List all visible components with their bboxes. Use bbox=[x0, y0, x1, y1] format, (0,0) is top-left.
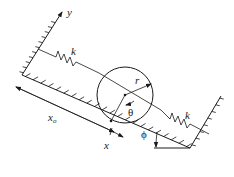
hatch-mark bbox=[212, 111, 216, 112]
hatch-mark bbox=[71, 93, 76, 96]
right-spring-label: k bbox=[185, 109, 191, 121]
theta-arrow bbox=[126, 101, 134, 105]
hatch-mark bbox=[45, 32, 49, 33]
phi-label: ϕ bbox=[141, 128, 147, 140]
hatch-mark bbox=[48, 83, 53, 86]
hatch-mark bbox=[141, 124, 146, 127]
radius-label: r bbox=[135, 74, 140, 86]
hatch-mark bbox=[204, 125, 208, 126]
hatch-mark bbox=[148, 127, 153, 130]
right-wall-line bbox=[190, 96, 221, 148]
x-axis-arrow bbox=[112, 131, 123, 137]
hatch-mark bbox=[216, 105, 220, 106]
hatch-mark bbox=[56, 87, 61, 90]
hatch-mark bbox=[118, 114, 123, 117]
hatch-mark bbox=[200, 132, 204, 133]
incline-hatching bbox=[25, 73, 191, 146]
hatch-mark bbox=[192, 145, 196, 146]
hatch-mark bbox=[208, 118, 212, 119]
hatch-mark bbox=[220, 98, 224, 99]
hatch-mark bbox=[38, 42, 42, 43]
hatch-mark bbox=[25, 73, 30, 76]
y-axis-arrow bbox=[22, 12, 62, 75]
contact-point bbox=[110, 120, 113, 123]
hatch-mark bbox=[41, 80, 46, 83]
right-wall bbox=[190, 96, 224, 148]
phi-angle-arc bbox=[156, 132, 157, 147]
hatch-mark bbox=[23, 67, 27, 68]
x-origin-tick bbox=[110, 128, 112, 135]
left-spring bbox=[38, 49, 99, 73]
hatch-mark bbox=[35, 47, 39, 48]
y-axis-label: y bbox=[66, 6, 72, 18]
hatch-mark bbox=[33, 77, 38, 80]
hatch-mark bbox=[102, 107, 107, 110]
hatch-mark bbox=[19, 72, 23, 73]
incline-disk-spring-diagram: y ϕ r θ k k xo x bbox=[0, 0, 234, 177]
hatch-mark bbox=[164, 134, 169, 137]
hatch-mark bbox=[26, 62, 30, 63]
left-wall bbox=[19, 12, 62, 75]
spring-connection-line bbox=[99, 73, 161, 110]
hatch-mark bbox=[110, 110, 115, 113]
hatch-mark bbox=[32, 52, 36, 53]
hatch-mark bbox=[42, 37, 46, 38]
hatch-mark bbox=[179, 140, 184, 143]
right-wall-hatching bbox=[192, 98, 224, 146]
left-spring-label: k bbox=[71, 45, 77, 57]
hatch-mark bbox=[29, 57, 33, 58]
hatch-mark bbox=[48, 27, 52, 28]
x-axis-label: x bbox=[103, 139, 109, 151]
hatch-mark bbox=[171, 137, 176, 140]
hatch-mark bbox=[64, 90, 69, 93]
hatch-mark bbox=[51, 22, 55, 23]
hatch-mark bbox=[196, 138, 200, 139]
left-wall-hatching bbox=[19, 22, 55, 73]
x-origin-label: xo bbox=[47, 111, 57, 125]
hatch-mark bbox=[87, 100, 92, 103]
hatch-mark bbox=[79, 97, 84, 100]
theta-label: θ bbox=[128, 106, 133, 118]
